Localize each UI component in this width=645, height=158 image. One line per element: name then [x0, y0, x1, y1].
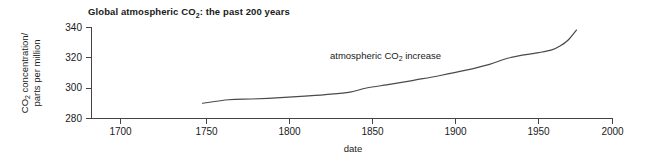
annotation-atmospheric-co2-increase: atmospheric CO2 increase — [330, 50, 441, 62]
y-axis-title-pre: CO — [19, 99, 30, 113]
x-axis-title: date — [344, 143, 363, 154]
x-tick-label-2000: 2000 — [601, 126, 624, 137]
y-axis-title-line2: parts per million — [31, 39, 42, 106]
annotation-post: increase — [403, 50, 442, 61]
data-line-co2 — [203, 30, 577, 103]
y-tick-label-280: 280 — [65, 113, 82, 124]
y-tick-label-300: 300 — [65, 82, 82, 93]
y-axis-title: CO2 concentration/ parts per million — [19, 32, 42, 113]
chart-canvas: 280 300 320 340 1700 1750 1800 1850 1900… — [0, 0, 645, 158]
x-tick-label-1950: 1950 — [527, 126, 550, 137]
x-axis-tick-labels: 1700 1750 1800 1850 1900 1950 2000 — [109, 126, 624, 137]
x-tick-label-1800: 1800 — [278, 126, 301, 137]
x-tick-label-1700: 1700 — [109, 126, 132, 137]
x-tick-label-1900: 1900 — [444, 126, 467, 137]
y-axis-title-line1: CO2 concentration/ — [19, 32, 31, 113]
x-tick-label-1850: 1850 — [361, 126, 384, 137]
y-tick-label-340: 340 — [65, 22, 82, 33]
y-axis-ticks — [86, 27, 92, 119]
y-axis-tick-labels: 280 300 320 340 — [65, 22, 82, 124]
co2-chart-screenshot: Global atmospheric CO2: the past 200 yea… — [0, 0, 645, 158]
x-tick-label-1750: 1750 — [195, 126, 218, 137]
x-axis-ticks — [121, 119, 613, 125]
y-tick-label-320: 320 — [65, 52, 82, 63]
y-axis-title-post: concentration/ — [19, 32, 30, 95]
annotation-pre: atmospheric CO — [330, 50, 399, 61]
